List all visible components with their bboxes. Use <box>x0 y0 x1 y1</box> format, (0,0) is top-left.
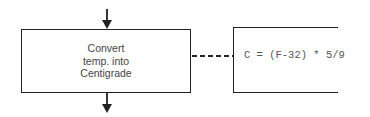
process-box: Convert temp. into Centigrade <box>21 29 191 93</box>
process-label: Convert temp. into Centigrade <box>80 42 131 80</box>
incoming-arrow <box>102 9 112 29</box>
outgoing-arrow <box>102 93 112 113</box>
annotation-formula: C = (F-32) * 5/9 <box>244 49 345 61</box>
